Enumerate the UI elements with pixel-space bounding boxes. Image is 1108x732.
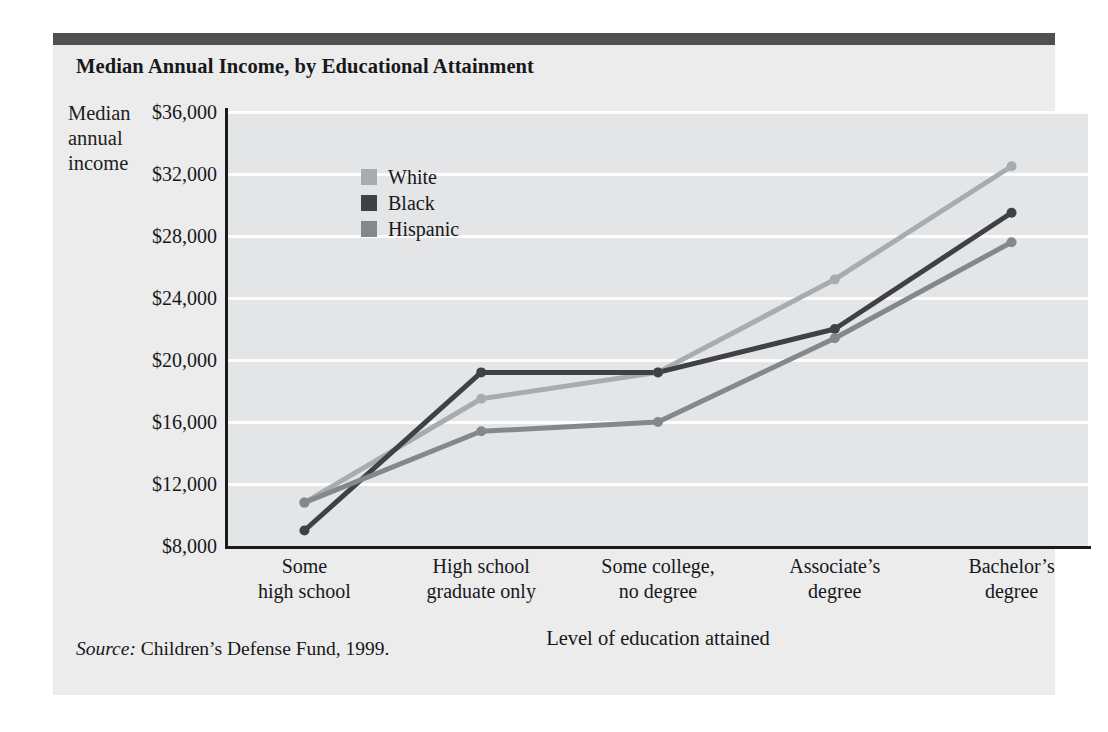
legend-label: Black [388, 193, 435, 213]
legend-label: White [388, 167, 437, 187]
x-axis-line [225, 546, 1091, 549]
data-point-black [830, 324, 840, 334]
data-point-white [476, 394, 486, 404]
legend-item-black: Black [361, 190, 459, 216]
x-tick-label: Some college, no degree [601, 554, 714, 604]
source-label: Source: [76, 638, 136, 659]
data-point-hispanic [1007, 237, 1017, 247]
data-point-black [476, 367, 486, 377]
legend-item-hispanic: Hispanic [361, 216, 459, 242]
legend-swatch-icon [361, 169, 377, 185]
legend-label: Hispanic [388, 219, 459, 239]
y-tick-label: $24,000 [152, 287, 217, 310]
data-point-black [299, 526, 309, 536]
data-point-black [653, 367, 663, 377]
data-point-hispanic [476, 426, 486, 436]
chart-card: Median Annual Income, by Educational Att… [53, 33, 1055, 695]
source-note: Source: Children’s Defense Fund, 1999. [76, 638, 389, 660]
x-tick-label: High school graduate only [427, 554, 536, 604]
data-point-hispanic [830, 333, 840, 343]
data-point-white [1007, 161, 1017, 171]
data-point-hispanic [653, 417, 663, 427]
chart-page: Median Annual Income, by Educational Att… [0, 0, 1108, 732]
x-tick-label: Associate’s degree [789, 554, 880, 604]
legend-swatch-icon [361, 195, 377, 211]
y-tick-label: $36,000 [152, 101, 217, 124]
x-tick-label: Some high school [258, 554, 351, 604]
chart-title: Median Annual Income, by Educational Att… [76, 55, 534, 78]
chart-legend: WhiteBlackHispanic [361, 164, 459, 242]
legend-swatch-icon [361, 221, 377, 237]
y-tick-label: $20,000 [152, 349, 217, 372]
card-top-accent-bar [53, 33, 1055, 45]
series-layer [228, 112, 1088, 546]
y-tick-label: $28,000 [152, 225, 217, 248]
y-tick-label: $16,000 [152, 411, 217, 434]
y-tick-label: $32,000 [152, 163, 217, 186]
x-tick-label: Bachelor’s degree [968, 554, 1054, 604]
plot-area: $8,000$12,000$16,000$20,000$24,000$28,00… [228, 112, 1088, 546]
data-point-black [1007, 208, 1017, 218]
y-tick-label: $8,000 [162, 535, 217, 558]
data-point-white [830, 274, 840, 284]
data-point-hispanic [299, 498, 309, 508]
y-axis-title: Median annual income [68, 101, 164, 176]
y-tick-label: $12,000 [152, 473, 217, 496]
legend-item-white: White [361, 164, 459, 190]
source-value: Children’s Defense Fund, 1999. [141, 638, 390, 659]
